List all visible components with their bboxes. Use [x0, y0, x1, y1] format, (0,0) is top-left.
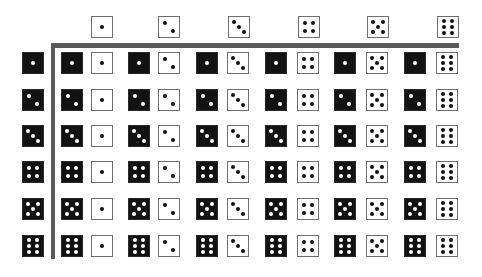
pip-icon: [450, 31, 454, 35]
pip-icon: [278, 244, 282, 248]
pip-icon: [163, 166, 167, 170]
pip-icon: [375, 134, 379, 138]
cell-black-die-r1-c4: [265, 52, 287, 74]
pip-icon: [269, 129, 273, 133]
pip-icon: [370, 249, 374, 253]
cell-white-die-r2-c6: [436, 89, 458, 111]
pip-icon: [413, 61, 417, 65]
pip-icon: [380, 249, 384, 253]
pip-icon: [36, 139, 40, 143]
pip-icon: [449, 92, 453, 96]
cell-white-die-r1-c1: [91, 52, 113, 74]
pip-icon: [270, 244, 274, 248]
pip-icon: [74, 102, 78, 106]
pip-icon: [409, 94, 413, 98]
pip-icon: [347, 250, 351, 254]
pip-icon: [417, 238, 421, 242]
pip-icon: [441, 201, 445, 205]
cell-white-die-r6-c2: [158, 235, 180, 257]
pip-icon: [376, 25, 380, 29]
pip-icon: [418, 139, 422, 143]
pip-icon: [311, 29, 315, 33]
pip-icon: [141, 238, 145, 242]
pip-icon: [26, 202, 30, 206]
pip-icon: [100, 98, 104, 102]
pip-icon: [201, 174, 205, 178]
column-header-die-2: [158, 16, 180, 38]
pip-icon: [241, 103, 245, 107]
pip-icon: [441, 104, 445, 108]
pip-icon: [302, 240, 306, 244]
pip-icon: [310, 166, 314, 170]
pip-icon: [35, 238, 39, 242]
pip-icon: [274, 134, 278, 138]
pip-icon: [236, 170, 240, 174]
pip-icon: [141, 250, 145, 254]
pip-icon: [347, 102, 351, 106]
pip-icon: [347, 244, 351, 248]
pip-icon: [274, 61, 278, 65]
pip-icon: [278, 174, 282, 178]
pip-icon: [65, 129, 69, 133]
cell-black-die-r2-c3: [196, 89, 218, 111]
pip-icon: [303, 21, 307, 25]
pip-icon: [270, 174, 274, 178]
cell-white-die-r3-c1: [91, 125, 113, 147]
cell-white-die-r3-c6: [436, 125, 458, 147]
column-header-die-5: [367, 16, 389, 38]
pip-icon: [100, 244, 104, 248]
cell-white-die-r5-c2: [158, 198, 180, 220]
pip-icon: [370, 103, 374, 107]
pip-icon: [310, 94, 314, 98]
pip-icon: [370, 129, 374, 133]
pip-icon: [380, 93, 384, 97]
pip-icon: [310, 174, 314, 178]
pip-icon: [370, 56, 374, 60]
pip-icon: [171, 174, 175, 178]
cell-white-die-r4-c2: [158, 161, 180, 183]
pip-icon: [75, 212, 79, 216]
pip-icon: [418, 212, 422, 216]
pip-icon: [409, 174, 413, 178]
pip-icon: [381, 20, 385, 24]
pip-icon: [302, 102, 306, 106]
pip-icon: [449, 61, 453, 65]
pip-icon: [441, 55, 445, 59]
cell-white-die-r4-c3: [227, 161, 249, 183]
pip-icon: [417, 174, 421, 178]
pip-icon: [100, 25, 104, 29]
pip-icon: [31, 61, 35, 65]
cell-white-die-r5-c1: [91, 198, 113, 220]
pip-icon: [74, 238, 78, 242]
cell-black-die-r3-c3: [196, 125, 218, 147]
pip-icon: [449, 207, 453, 211]
pip-icon: [370, 239, 374, 243]
pip-icon: [210, 202, 214, 206]
pip-icon: [338, 202, 342, 206]
pip-icon: [74, 250, 78, 254]
pip-icon: [232, 20, 236, 24]
pip-icon: [343, 61, 347, 65]
pip-icon: [70, 207, 74, 211]
pip-icon: [380, 175, 384, 179]
cell-black-die-r5-c3: [196, 198, 218, 220]
cell-white-die-r1-c6: [436, 52, 458, 74]
cell-black-die-r2-c5: [334, 89, 356, 111]
pip-icon: [347, 238, 351, 242]
pip-icon: [241, 139, 245, 143]
pip-icon: [132, 129, 136, 133]
cell-black-die-r1-c6: [404, 52, 426, 74]
cell-white-die-r6-c6: [436, 235, 458, 257]
pip-icon: [310, 211, 314, 215]
pip-icon: [302, 65, 306, 69]
pip-icon: [141, 174, 145, 178]
pip-icon: [310, 57, 314, 61]
cell-white-die-r6-c5: [366, 235, 388, 257]
pip-icon: [380, 202, 384, 206]
pip-icon: [375, 244, 379, 248]
pip-icon: [65, 212, 69, 216]
pip-icon: [201, 94, 205, 98]
cell-white-die-r2-c5: [366, 89, 388, 111]
pip-icon: [236, 61, 240, 65]
cell-black-die-r1-c5: [334, 52, 356, 74]
